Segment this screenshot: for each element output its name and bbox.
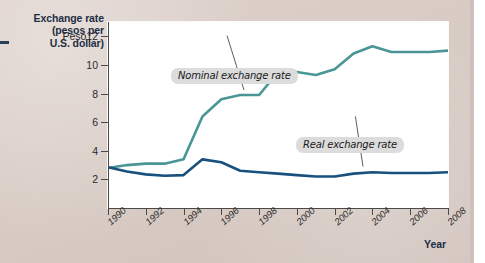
x-axis-title: Year xyxy=(424,238,446,250)
figure-container: Exchange rate (pesos per U.S. dollar) 24… xyxy=(0,0,485,263)
x-tick-mark xyxy=(184,208,185,215)
x-axis-ticks: 1990199219941996199820002002200420062008 xyxy=(0,0,485,263)
nominal-callout-label: Nominal exchange rate xyxy=(171,68,298,84)
real-callout-label: Real exchange rate xyxy=(296,137,404,153)
